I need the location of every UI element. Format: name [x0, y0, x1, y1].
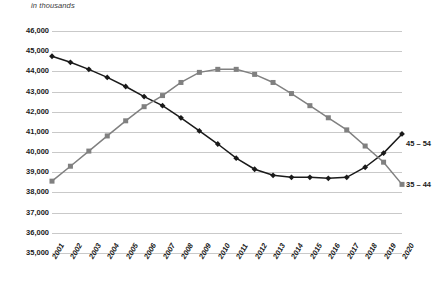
x-axis: 2001200220032004200520062007200820092010… [52, 253, 402, 297]
data-point-marker [142, 104, 147, 109]
series-line [52, 69, 402, 184]
data-point-marker [325, 175, 331, 181]
data-point-marker [49, 53, 55, 59]
data-point-marker [123, 84, 129, 90]
data-point-marker [160, 93, 165, 98]
chart-subtitle: in thousands [31, 1, 75, 10]
y-axis-tick-label: 37,000 [3, 208, 49, 217]
y-axis-tick-label: 36,000 [3, 228, 49, 237]
data-point-marker [271, 80, 276, 85]
data-point-marker [363, 144, 368, 149]
data-point-marker [50, 179, 55, 184]
y-axis-tick-label: 46,000 [3, 26, 49, 35]
data-point-marker [141, 94, 147, 100]
y-axis-tick-label: 40,000 [3, 147, 49, 156]
data-point-marker [215, 67, 220, 72]
data-point-marker [400, 182, 405, 187]
y-axis-tick-label: 41,000 [3, 127, 49, 136]
data-point-marker [326, 115, 331, 120]
legend-label-series-a: 45 – 54 [406, 139, 431, 148]
data-point-marker [289, 91, 294, 96]
data-point-marker [381, 160, 386, 165]
data-point-marker [307, 103, 312, 108]
data-point-marker [197, 70, 202, 75]
data-point-marker [344, 127, 349, 132]
data-point-marker [104, 75, 110, 81]
y-axis-tick-label: 45,000 [3, 46, 49, 55]
x-axis-tick-label: 2020 [400, 242, 416, 261]
data-point-marker [270, 172, 276, 178]
line-chart: in thousands 46,00045,00044,00043,00042,… [0, 0, 439, 297]
y-axis-tick-label: 38,000 [3, 187, 49, 196]
data-point-marker [123, 118, 128, 123]
y-axis-tick-label: 39,000 [3, 167, 49, 176]
data-point-marker [178, 80, 183, 85]
data-point-marker [86, 66, 92, 72]
y-axis-tick-label: 44,000 [3, 66, 49, 75]
y-axis-tick-label: 42,000 [3, 107, 49, 116]
data-point-marker [252, 72, 257, 77]
y-axis-tick-label: 43,000 [3, 87, 49, 96]
data-point-marker [105, 133, 110, 138]
legend-label-series-b: 35 – 44 [406, 180, 431, 189]
plot-area [52, 31, 402, 253]
data-point-marker [86, 149, 91, 154]
data-point-marker [289, 174, 295, 180]
data-point-marker [344, 174, 350, 180]
data-point-marker [307, 174, 313, 180]
series-layer [52, 31, 402, 253]
data-point-marker [68, 164, 73, 169]
y-axis: 46,00045,00044,00043,00042,00041,00040,0… [0, 31, 49, 253]
series-line [52, 56, 402, 178]
data-point-marker [234, 67, 239, 72]
data-point-marker [68, 59, 74, 65]
y-axis-tick-label: 35,000 [3, 248, 49, 257]
